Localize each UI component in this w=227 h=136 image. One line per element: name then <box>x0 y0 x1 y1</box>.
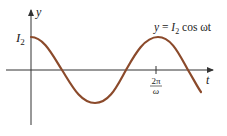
tick-label-denominator: ω <box>153 86 159 96</box>
y-axis-label: y <box>35 5 42 19</box>
x-axis-label: t <box>206 73 210 87</box>
tick-label-numerator: 2π <box>151 76 161 86</box>
equation-label: y = I2 cos ωt <box>153 21 212 36</box>
amplitude-label: I2 <box>15 30 25 47</box>
cosine-graph: y t I2 y = I2 cos ωt 2π ω <box>0 0 227 136</box>
